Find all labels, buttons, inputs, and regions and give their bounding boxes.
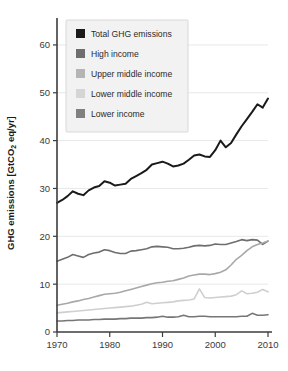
legend-label-3: Lower middle income xyxy=(91,89,172,99)
chart-canvas: 0102030405060 19701980199020002010 GHG e… xyxy=(0,0,288,371)
chart-legend: Total GHG emissionsHigh incomeUpper midd… xyxy=(66,20,188,132)
y-tick-label: 20 xyxy=(39,231,50,242)
legend-swatch-0 xyxy=(76,29,85,38)
ghg-emissions-chart: 0102030405060 19701980199020002010 GHG e… xyxy=(0,0,288,371)
series-line-2 xyxy=(57,241,268,305)
legend-swatch-4 xyxy=(76,109,85,118)
y-axis-title: GHG emissions [GtCO2 eq/yr] xyxy=(5,116,17,250)
y-tick-label: 30 xyxy=(39,183,50,194)
y-tick-label: 10 xyxy=(39,279,50,290)
legend-swatch-2 xyxy=(76,69,85,78)
legend-swatch-1 xyxy=(76,49,85,58)
legend-label-2: Upper middle income xyxy=(91,69,172,79)
x-tick-label: 1990 xyxy=(152,339,173,350)
legend-label-1: High income xyxy=(91,49,139,59)
x-tick-label: 2000 xyxy=(205,339,226,350)
y-tick-label: 60 xyxy=(39,39,50,50)
y-tick-label: 50 xyxy=(39,87,50,98)
series-line-4 xyxy=(57,313,268,321)
legend-swatch-3 xyxy=(76,89,85,98)
x-tick-label: 1980 xyxy=(99,339,120,350)
legend-label-4: Lower income xyxy=(91,109,145,119)
x-tick-label: 1970 xyxy=(46,339,67,350)
x-tick-label: 2010 xyxy=(257,339,278,350)
y-axis-title-text: GHG emissions [GtCO2 eq/yr] xyxy=(5,116,17,250)
y-tick-label: 0 xyxy=(45,326,50,337)
series-line-1 xyxy=(57,240,268,262)
series-line-3 xyxy=(57,289,268,313)
y-tick-label: 40 xyxy=(39,135,50,146)
x-axis-ticks: 19701980199020002010 xyxy=(46,332,278,350)
y-axis-ticks: 0102030405060 xyxy=(39,39,57,337)
legend-label-0: Total GHG emissions xyxy=(91,29,172,39)
